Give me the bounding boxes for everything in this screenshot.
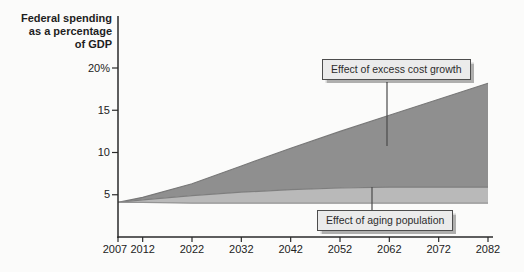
annotation-aging-population: Effect of aging population xyxy=(317,210,453,231)
area-plot xyxy=(0,0,524,272)
y-tick-label: 10 xyxy=(70,146,110,158)
y-tick-label: 15 xyxy=(70,104,110,116)
annotation-excess-cost-growth: Effect of excess cost growth xyxy=(322,59,471,80)
x-tick-label: 2042 xyxy=(269,243,313,255)
chart-canvas: Federal spending as a percentage of GDP … xyxy=(0,0,524,272)
x-tick-label: 2022 xyxy=(170,243,214,255)
y-tick-label: 20% xyxy=(70,62,110,74)
x-tick-label: 2052 xyxy=(318,243,362,255)
y-tick-label: 5 xyxy=(70,188,110,200)
x-tick-label: 2012 xyxy=(121,243,165,255)
x-tick-label: 2032 xyxy=(219,243,263,255)
x-tick-label: 2062 xyxy=(367,243,411,255)
x-tick-label: 2072 xyxy=(417,243,461,255)
x-tick-label: 2082 xyxy=(466,243,510,255)
